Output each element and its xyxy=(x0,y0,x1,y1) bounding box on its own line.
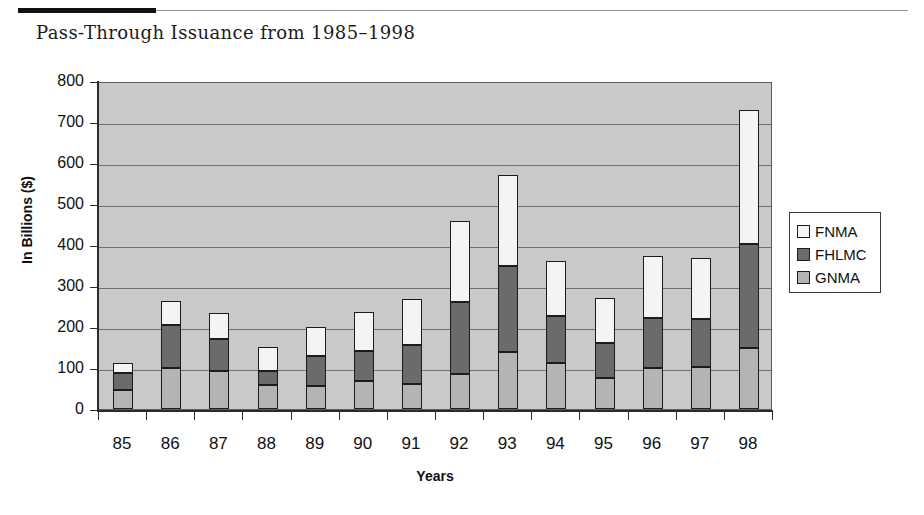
gridline xyxy=(99,165,771,166)
gridline xyxy=(99,370,771,371)
figure-title: Pass-Through Issuance from 1985–1998 xyxy=(36,22,415,43)
legend-swatch-fhlmc-icon xyxy=(797,248,810,261)
bar-segment-fhlmc xyxy=(643,318,663,368)
legend-item-fhlmc[interactable]: FHLMC xyxy=(797,243,880,266)
x-tick-label: 93 xyxy=(487,434,527,454)
bar-segment-fnma xyxy=(595,298,615,343)
x-tick-label: 94 xyxy=(535,434,575,454)
bar-group xyxy=(354,81,374,409)
bar-segment-gnma xyxy=(498,352,518,409)
bar-group xyxy=(691,81,711,409)
bar-group xyxy=(546,81,566,409)
bar-segment-fnma xyxy=(546,261,566,315)
gridline xyxy=(99,288,771,289)
bar-segment-fnma xyxy=(258,347,278,371)
x-tick-mark xyxy=(98,412,99,420)
bar-segment-fnma xyxy=(402,299,422,345)
x-tick-label: 96 xyxy=(632,434,672,454)
bar-segment-gnma xyxy=(450,374,470,409)
y-axis-title: In Billions ($) xyxy=(19,135,35,305)
bar-segment-gnma xyxy=(209,371,229,409)
bar-segment-fhlmc xyxy=(498,266,518,353)
x-tick-mark xyxy=(628,412,629,420)
bar-segment-fhlmc xyxy=(595,343,615,378)
x-tick-mark xyxy=(724,412,725,420)
bar-group xyxy=(595,81,615,409)
y-tick-label: 800 xyxy=(34,72,84,90)
bar-group xyxy=(113,81,133,409)
bar-segment-fhlmc xyxy=(161,325,181,368)
bar-group xyxy=(498,81,518,409)
bar-group xyxy=(209,81,229,409)
header-rule-thin xyxy=(156,10,908,11)
bar-segment-fhlmc xyxy=(546,316,566,364)
y-tick-label: 400 xyxy=(34,236,84,254)
bar-segment-fnma xyxy=(498,175,518,265)
x-tick-label: 89 xyxy=(295,434,335,454)
bar-segment-gnma xyxy=(113,390,133,409)
bar-segment-fhlmc xyxy=(209,339,229,371)
y-tick-mark xyxy=(90,328,97,329)
bar-segment-fnma xyxy=(306,327,326,356)
x-tick-label: 98 xyxy=(728,434,768,454)
bar-segment-fhlmc xyxy=(306,356,326,386)
x-tick-label: 95 xyxy=(584,434,624,454)
bar-group xyxy=(643,81,663,409)
x-tick-mark xyxy=(146,412,147,420)
bar-segment-gnma xyxy=(354,381,374,409)
bar-group xyxy=(306,81,326,409)
bar-group xyxy=(402,81,422,409)
header-rule-thick xyxy=(18,8,156,13)
bar-segment-fnma xyxy=(691,258,711,319)
legend-swatch-fnma-icon xyxy=(797,225,810,238)
x-tick-mark xyxy=(579,412,580,420)
y-tick-mark xyxy=(90,287,97,288)
x-tick-label: 91 xyxy=(391,434,431,454)
x-tick-label: 92 xyxy=(439,434,479,454)
y-tick-label: 200 xyxy=(34,318,84,336)
x-tick-mark xyxy=(339,412,340,420)
x-tick-mark xyxy=(291,412,292,420)
bar-group xyxy=(258,81,278,409)
gridline xyxy=(99,247,771,248)
y-tick-label: 100 xyxy=(34,359,84,377)
y-tick-label: 0 xyxy=(34,400,84,418)
bar-segment-fnma xyxy=(113,363,133,373)
bar-segment-fnma xyxy=(450,221,470,301)
x-tick-label: 87 xyxy=(198,434,238,454)
bar-segment-fhlmc xyxy=(354,351,374,381)
bar-group xyxy=(161,81,181,409)
bar-segment-gnma xyxy=(258,385,278,409)
x-tick-mark xyxy=(483,412,484,420)
bar-segment-fhlmc xyxy=(450,302,470,375)
bar-segment-fnma xyxy=(209,313,229,339)
bar-segment-gnma xyxy=(402,384,422,409)
bar-segment-fhlmc xyxy=(258,371,278,385)
legend-item-fnma[interactable]: FNMA xyxy=(797,220,880,243)
x-axis-title: Years xyxy=(0,468,870,484)
bar-segment-gnma xyxy=(306,386,326,409)
legend-swatch-gnma-icon xyxy=(797,271,810,284)
y-tick-label: 700 xyxy=(34,113,84,131)
x-tick-mark xyxy=(435,412,436,420)
y-tick-mark xyxy=(90,82,97,83)
bar-segment-gnma xyxy=(546,363,566,409)
x-tick-mark xyxy=(194,412,195,420)
x-tick-label: 97 xyxy=(680,434,720,454)
bar-group xyxy=(739,81,759,409)
y-tick-mark xyxy=(90,246,97,247)
legend-label: GNMA xyxy=(815,269,860,286)
bar-segment-fnma xyxy=(739,110,759,244)
legend-item-gnma[interactable]: GNMA xyxy=(797,266,880,289)
bar-segment-fhlmc xyxy=(402,345,422,383)
x-tick-label: 90 xyxy=(343,434,383,454)
gridline xyxy=(99,124,771,125)
x-tick-mark xyxy=(772,412,773,420)
y-tick-mark xyxy=(90,369,97,370)
plot-area xyxy=(98,82,772,410)
gridline xyxy=(99,329,771,330)
legend-label: FNMA xyxy=(815,223,858,240)
bar-segment-gnma xyxy=(739,348,759,410)
figure-page: Pass-Through Issuance from 1985–1998 In … xyxy=(0,0,924,515)
bar-segment-gnma xyxy=(161,368,181,409)
